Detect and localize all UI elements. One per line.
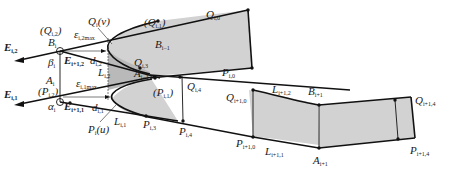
diagram-canvas: Ei,2 Ei,1 (Qi,2) Bi βi Ai (Pi,2) αi Ei+1…: [0, 0, 460, 175]
label-alpha-i: αi: [48, 100, 56, 113]
label-e-i2: Ei,2: [3, 41, 18, 54]
label-q-i1-0: Qi+1,0: [226, 91, 247, 104]
label-e-i1: Ei,1: [3, 88, 18, 101]
label-d-i1: di,1: [92, 101, 104, 114]
arrow-e-i2-icon: [14, 57, 24, 63]
label-l-i1: Li,1: [113, 115, 126, 128]
label-q-i1-4: Qi+1,4: [415, 94, 436, 107]
label-p-u: Pi(u): [87, 123, 110, 136]
label-a-ip1: Ai+1: [312, 154, 328, 167]
label-p-i1-0: Pi+1,0: [235, 137, 255, 150]
label-q-v: Qi(v): [88, 15, 110, 28]
arrow-eps2-icon: [101, 49, 106, 53]
label-p-i4: Pi,4: [178, 125, 192, 138]
label-q-i1-paren: (Qi,1): [144, 16, 166, 29]
lower-path-line-1: [148, 117, 253, 137]
label-b-i: Bi: [48, 36, 57, 49]
label-p-i1-paren: (Pi,1): [153, 86, 174, 99]
label-l-i1-1: Li+1,1: [264, 145, 284, 158]
toolpath-geometry-diagram: Ei,2 Ei,1 (Qi,2) Bi βi Ai (Pi,2) αi Ei+1…: [0, 0, 460, 175]
label-beta-i: βi: [47, 56, 55, 69]
label-p-i1-4: Pi+1,4: [409, 144, 429, 157]
right-shaded-region: [319, 97, 415, 148]
label-q-i0: Qi,0: [206, 8, 220, 21]
label-p-i2-paren: (Pi,2): [38, 85, 59, 98]
arrow-e-i1-icon: [14, 101, 24, 107]
label-eps-i1max: εi,1max: [76, 77, 97, 90]
label-e-i1-1: Ei+1,1: [63, 100, 84, 113]
label-q-i4: Qi,4: [187, 80, 201, 93]
arrow-eps1-icon: [105, 95, 110, 99]
segment-q-i4-p-i4: [182, 76, 183, 121]
label-eps-i2max: εi,2max: [74, 28, 95, 41]
label-p-i3: Pi,3: [142, 118, 156, 131]
